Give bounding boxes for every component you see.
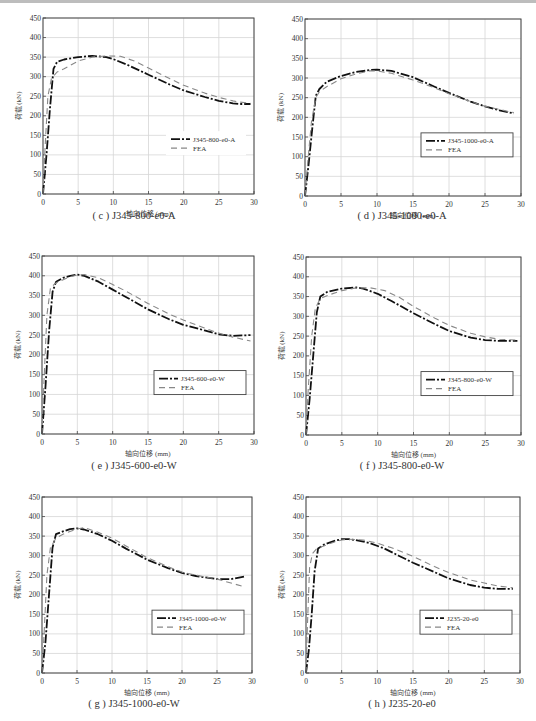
svg-text:250: 250 [29,571,41,580]
svg-text:0: 0 [304,439,308,448]
grid-lines [306,497,520,673]
legend-fea-label: FEA [447,624,460,632]
test-curve [42,275,251,434]
svg-text:5: 5 [75,677,79,686]
svg-text:10: 10 [109,438,117,447]
svg-text:100: 100 [292,152,304,161]
svg-text:15: 15 [409,200,417,209]
svg-text:400: 400 [29,271,41,280]
svg-text:0: 0 [304,677,308,686]
svg-text:10: 10 [108,677,116,686]
legend-fea-label: FEA [448,385,461,393]
y-axis-label: 荷载 (kN) [276,92,285,122]
svg-text:250: 250 [293,571,305,580]
y-axis-label: 荷载 (kN) [14,91,23,121]
legend: J345-600-e0-WFEA [154,371,246,395]
svg-text:50: 50 [34,170,42,179]
svg-text:400: 400 [292,34,304,43]
x-axis-label: 轴向位移 (mm) [390,688,436,697]
panel-caption: ( f ) J345-800-e0-W [268,460,536,471]
legend-fea-label: FEA [448,146,461,154]
svg-text:450: 450 [293,253,305,262]
svg-text:30: 30 [517,200,525,209]
chart-panel-e: 051015202530050100150200250300350400450轴… [0,236,268,472]
svg-text:0: 0 [37,190,41,199]
legend: J235-20-e0FEA [420,610,512,634]
chart-panel-c: 051015202530050100150200250300350400450轴… [0,0,268,236]
svg-text:100: 100 [29,390,41,399]
svg-text:50: 50 [296,172,304,181]
svg-text:25: 25 [481,200,489,209]
legend: J345-800-e0-WFEA [421,372,513,396]
svg-text:150: 150 [29,610,41,619]
svg-text:100: 100 [30,150,42,159]
svg-text:20: 20 [180,438,188,447]
x-axis-label: 轴向位移 (mm) [391,450,437,459]
svg-text:150: 150 [30,131,42,140]
legend-fea-label: FEA [193,145,206,153]
svg-text:100: 100 [293,629,305,638]
svg-text:30: 30 [517,439,525,448]
svg-text:150: 150 [29,370,41,379]
svg-text:10: 10 [374,677,382,686]
y-axis-label: 荷载 (kN) [277,570,286,600]
svg-text:400: 400 [29,512,41,521]
fea-curve [42,528,245,674]
svg-text:25: 25 [481,439,489,448]
svg-text:350: 350 [292,54,304,63]
svg-text:15: 15 [144,438,152,447]
svg-text:5: 5 [339,200,343,209]
panel-caption: ( e ) J345-600-e0-W [0,460,268,471]
chart-svg: 051015202530050100150200250300350400450轴… [268,236,536,472]
svg-text:150: 150 [292,133,304,142]
legend-test-label: J345-800-e0-A [193,136,235,144]
svg-text:200: 200 [29,350,41,359]
svg-text:0: 0 [36,430,40,439]
svg-text:25: 25 [213,677,221,686]
legend: J345-1000-e0-AFEA [421,133,513,157]
panel-caption: ( g ) J345-1000-e0-W [0,698,268,709]
legend-test-label: J345-800-e0-W [448,376,492,384]
svg-text:200: 200 [292,113,304,122]
svg-text:50: 50 [33,649,41,658]
svg-text:350: 350 [30,53,42,62]
svg-text:5: 5 [75,438,79,447]
svg-text:350: 350 [29,532,41,541]
svg-text:5: 5 [340,439,344,448]
svg-text:30: 30 [250,438,258,447]
svg-text:0: 0 [300,669,304,678]
svg-text:25: 25 [481,677,489,686]
legend: J345-800-e0-AFEA [166,131,246,155]
svg-text:0: 0 [303,200,307,209]
svg-text:250: 250 [29,331,41,340]
svg-text:300: 300 [293,312,305,321]
x-axis-label: 轴向位移 (mm) [124,688,170,697]
grid-lines [42,256,254,434]
legend-fea-label: FEA [181,384,194,392]
svg-text:0: 0 [41,198,45,207]
svg-text:300: 300 [30,72,42,81]
svg-text:250: 250 [293,332,305,341]
legend-test-label: J235-20-e0 [447,615,479,623]
svg-text:10: 10 [373,200,381,209]
svg-text:50: 50 [33,410,41,419]
svg-text:20: 20 [445,677,453,686]
panel-caption: ( d ) J345-1000-e0-A [268,210,536,221]
svg-text:0: 0 [36,669,40,678]
svg-text:450: 450 [29,493,41,502]
svg-text:400: 400 [293,272,305,281]
legend-fea-label: FEA [179,624,192,632]
chart-svg: 051015202530050100150200250300350400450轴… [0,0,268,236]
test-curve [42,528,245,673]
svg-text:450: 450 [29,252,41,261]
grid-lines [43,18,254,194]
y-axis-label: 荷载 (kN) [13,570,22,600]
svg-text:30: 30 [248,677,256,686]
svg-text:30: 30 [250,198,258,207]
svg-text:350: 350 [293,532,305,541]
svg-text:20: 20 [446,439,454,448]
svg-text:15: 15 [409,677,417,686]
svg-text:300: 300 [292,74,304,83]
svg-text:400: 400 [293,512,305,521]
axis-ticks: 051015202530050100150200250300350400450 [29,493,256,687]
